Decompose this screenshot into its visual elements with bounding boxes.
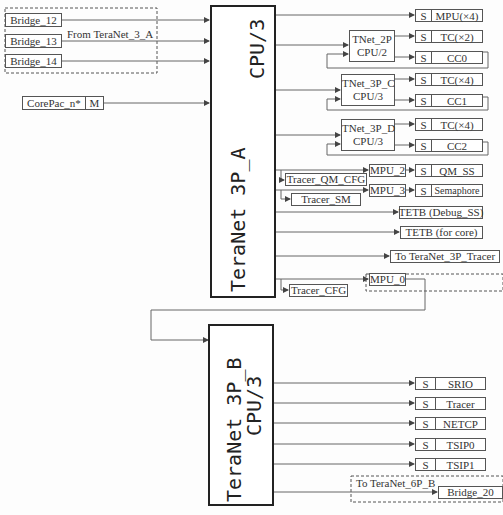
slave-name: QM_SS	[432, 165, 482, 176]
corepac-master-port: M	[85, 96, 104, 110]
slave-port: S	[416, 165, 432, 176]
slave-port: S	[416, 95, 432, 106]
slave-tracer[interactable]: S Tracer	[415, 397, 486, 410]
tnet-3p-d-name: TNet_3P_D	[342, 122, 394, 135]
corepac-label: CorePac_n*	[27, 98, 81, 109]
teranet-3p-b-clock: CPU/3	[242, 376, 266, 436]
slave-tsip0[interactable]: S TSIP0	[415, 438, 486, 451]
tetb-debug-ss[interactable]: TETB (Debug_SS)	[399, 206, 483, 219]
tracer-cfg[interactable]: Tracer_CFG	[289, 284, 348, 297]
tnet-3p-d-clock: CPU/3	[342, 135, 394, 148]
tnet-3p-c[interactable]: TNet_3P_C CPU/3	[341, 74, 395, 106]
tracer-qm-cfg[interactable]: Tracer_QM_CFG	[285, 173, 367, 186]
slave-name: CC2	[432, 140, 482, 151]
slave-port: S	[416, 398, 436, 409]
slave-name: TC(×4)	[432, 119, 482, 130]
slave-tc-x2[interactable]: S TC(×2)	[415, 30, 483, 43]
tetb-for-core[interactable]: TETB (for core)	[400, 226, 483, 239]
slave-port: S	[416, 439, 436, 450]
slave-port: S	[416, 52, 432, 63]
slave-mpu-x4[interactable]: S MPU(×4)	[415, 9, 483, 22]
teranet-diagram: Bridge_12 Bridge_13 Bridge_14 From TeraN…	[0, 0, 503, 515]
slave-name: CC1	[432, 95, 482, 106]
bridge-13[interactable]: Bridge_13	[5, 34, 62, 48]
slave-port: S	[416, 459, 436, 470]
slave-cc2[interactable]: S CC2	[415, 139, 483, 152]
slave-name: Semaphore	[432, 185, 482, 196]
slave-name: TSIP0	[436, 439, 485, 450]
tnet-3p-d[interactable]: TNet_3P_D CPU/3	[341, 119, 395, 151]
slave-tc-x4-d[interactable]: S TC(×4)	[415, 118, 483, 131]
slave-name: NETCP	[436, 418, 485, 429]
slave-port: S	[416, 74, 432, 85]
teranet-3p-a[interactable]: TeraNet 3P_A CPU/3	[210, 5, 276, 298]
bridge-14[interactable]: Bridge_14	[5, 54, 62, 68]
to-teranet-3p-tracer[interactable]: To TeraNet_3P_Tracer	[390, 250, 500, 263]
slave-name: TC(×4)	[432, 74, 482, 85]
slave-port: S	[416, 140, 432, 151]
teranet-3p-a-title: TeraNet 3P_A	[226, 148, 250, 293]
slave-tc-x4-c[interactable]: S TC(×4)	[415, 73, 483, 86]
slave-name: SRIO	[436, 378, 485, 389]
bridge-20[interactable]: Bridge_20	[438, 486, 503, 499]
slave-netcp[interactable]: S NETCP	[415, 417, 486, 430]
bridge-12[interactable]: Bridge_12	[5, 13, 62, 27]
slave-tsip1[interactable]: S TSIP1	[415, 458, 486, 471]
slave-port: S	[416, 10, 432, 21]
tnet-2p-name: TNet_2P	[350, 33, 394, 46]
mpu-3[interactable]: MPU_3	[369, 184, 406, 197]
slave-semaphore[interactable]: S Semaphore	[415, 184, 483, 197]
slave-name: TC(×2)	[432, 31, 482, 42]
slave-srio[interactable]: S SRIO	[415, 377, 486, 390]
teranet-3p-b[interactable]: TeraNet 3P_B CPU/3	[208, 324, 274, 506]
tnet-2p-clock: CPU/2	[350, 46, 394, 59]
slave-port: S	[416, 31, 432, 42]
tnet-3p-c-name: TNet_3P_C	[342, 77, 394, 90]
slave-qm-ss[interactable]: S QM_SS	[415, 164, 483, 177]
mpu-0[interactable]: MPU_0	[369, 273, 406, 286]
tnet-3p-c-clock: CPU/3	[342, 90, 394, 103]
mpu-2[interactable]: MPU_2	[369, 164, 406, 177]
corepac[interactable]: CorePac_n*	[22, 96, 86, 110]
slave-name: CC0	[432, 52, 482, 63]
slave-name: MPU(×4)	[432, 10, 482, 21]
slave-cc1[interactable]: S CC1	[415, 94, 483, 107]
tracer-sm[interactable]: Tracer_SM	[291, 193, 361, 206]
slave-name: Tracer	[436, 398, 485, 409]
slave-port: S	[416, 119, 432, 130]
tnet-2p[interactable]: TNet_2P CPU/2	[349, 30, 395, 62]
slave-port: S	[416, 378, 436, 389]
bridge-group-label: From TeraNet_3_A	[67, 28, 153, 40]
slave-port: S	[416, 418, 436, 429]
teranet-3p-a-clock: CPU/3	[245, 19, 269, 79]
slave-port: S	[416, 185, 432, 196]
to-teranet-6p-b-label: To TeraNet_6P_B	[356, 477, 435, 489]
slave-cc0[interactable]: S CC0	[415, 51, 483, 64]
slave-name: TSIP1	[436, 459, 485, 470]
